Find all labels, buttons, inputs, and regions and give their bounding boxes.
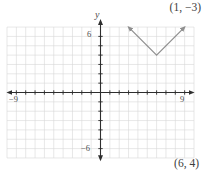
y-axis-label: y xyxy=(95,10,99,20)
annotation-point-top: (1, −3) xyxy=(170,2,201,14)
annotation-point-bottom: (6, 4) xyxy=(174,158,199,170)
x-tick-label-9: 9 xyxy=(180,95,184,104)
x-tick-label-neg9: −9 xyxy=(9,95,18,104)
graph-figure: y 6 −6 −9 9 (1, −3) (6, 4) xyxy=(0,0,206,175)
coordinate-plane xyxy=(0,0,206,175)
y-tick-label-neg6: −6 xyxy=(81,144,90,153)
y-tick-label-6: 6 xyxy=(87,30,91,39)
